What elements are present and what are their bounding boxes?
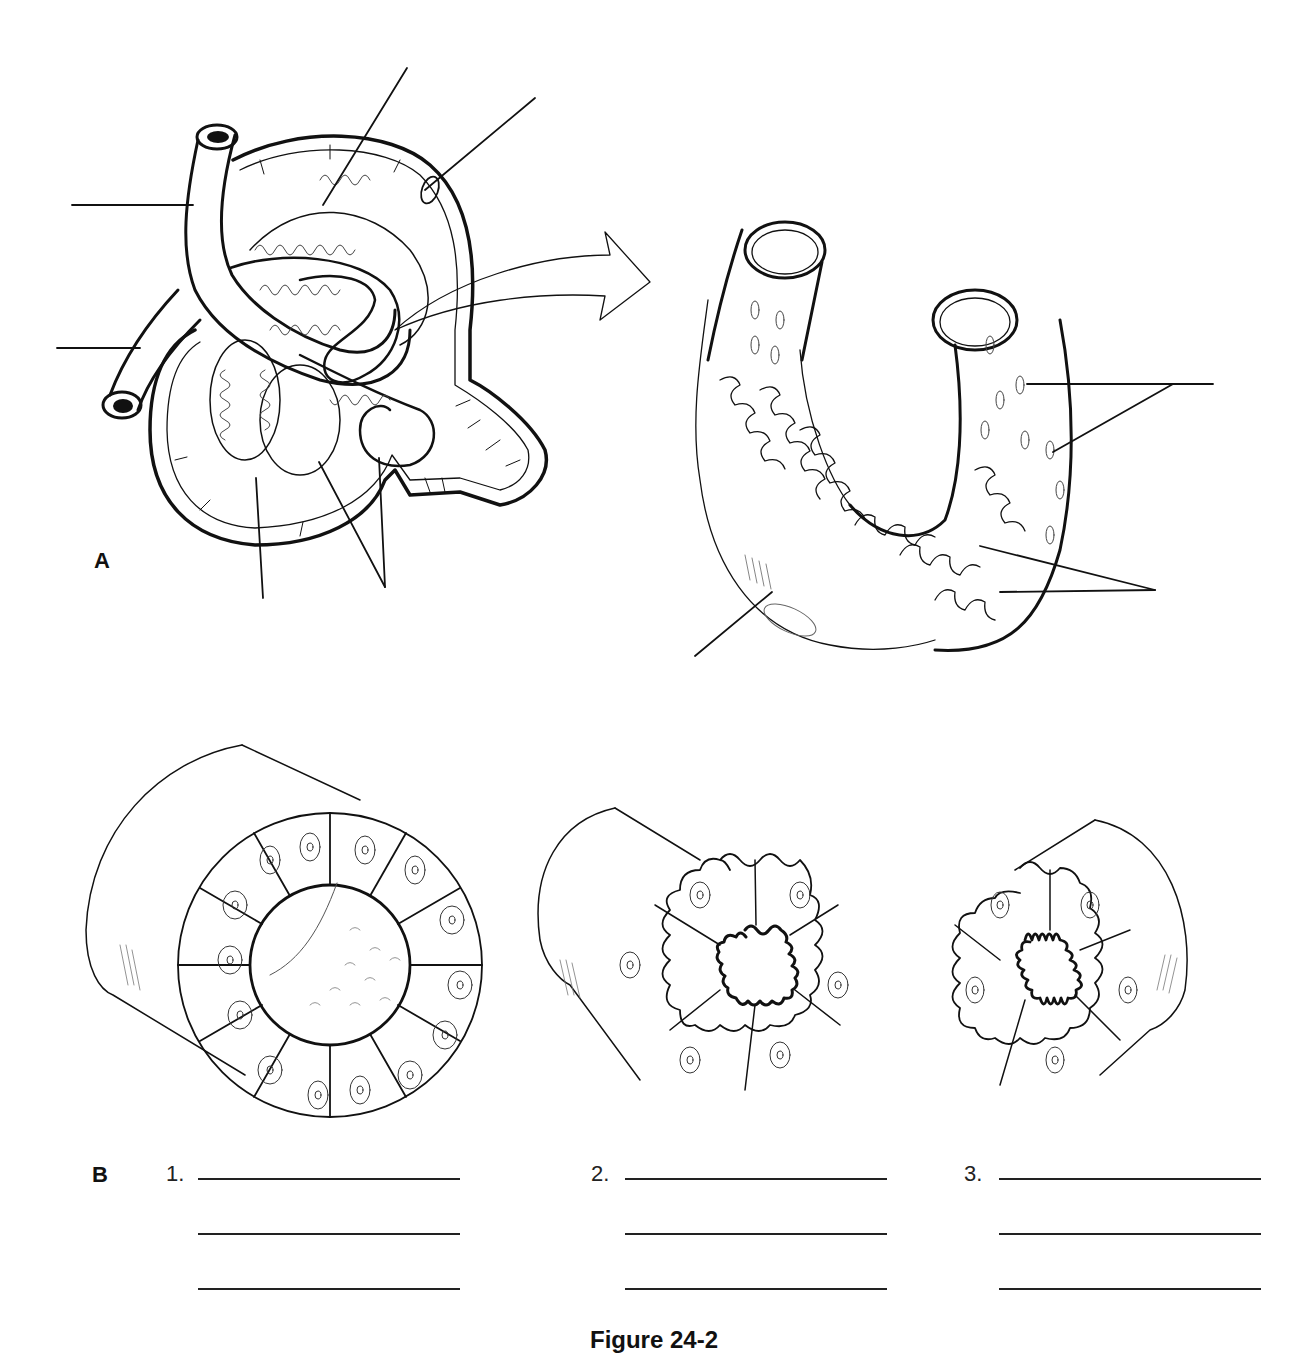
answer-line-2c[interactable] — [625, 1288, 887, 1290]
renal-corpuscle-diagram — [57, 68, 650, 598]
item-1-number: 1. — [166, 1161, 184, 1187]
figure-caption: Figure 24-2 — [0, 1326, 1308, 1354]
cross-section-3-diagram — [953, 820, 1188, 1085]
panel-a-label: A — [94, 548, 110, 574]
answer-line-1b[interactable] — [198, 1233, 460, 1235]
item-2-number: 2. — [591, 1161, 609, 1187]
answer-line-1c[interactable] — [198, 1288, 460, 1290]
answer-line-1a[interactable] — [198, 1178, 460, 1180]
answer-line-2b[interactable] — [625, 1233, 887, 1235]
answer-line-3a[interactable] — [999, 1178, 1261, 1180]
answer-line-2a[interactable] — [625, 1178, 887, 1180]
answer-line-3c[interactable] — [999, 1288, 1261, 1290]
panel-b-label: B — [92, 1162, 108, 1188]
capillary-magnified-diagram — [695, 222, 1213, 656]
answer-line-3b[interactable] — [999, 1233, 1261, 1235]
item-3-number: 3. — [964, 1161, 982, 1187]
leader-lines-capillary — [695, 384, 1213, 656]
cross-section-1-diagram — [86, 745, 482, 1117]
cross-section-2-diagram — [538, 808, 848, 1090]
